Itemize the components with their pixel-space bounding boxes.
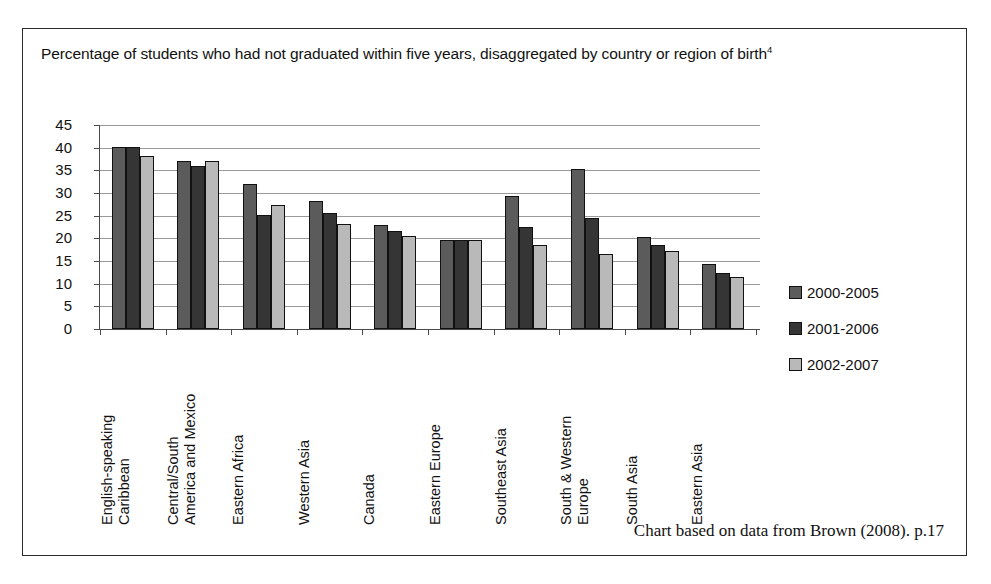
y-tick-label: 30 [32, 187, 72, 199]
bar-group [428, 125, 494, 329]
bar-group [100, 125, 166, 329]
bar[interactable] [112, 147, 126, 329]
bar-group [559, 125, 625, 329]
y-tick-label: 40 [32, 142, 72, 154]
bar[interactable] [665, 251, 679, 329]
bar[interactable] [271, 205, 285, 329]
legend-label: 2002-2007 [807, 356, 879, 373]
y-tick-label: 35 [32, 164, 72, 176]
bar[interactable] [205, 161, 219, 329]
bar[interactable] [388, 231, 402, 329]
bar[interactable] [257, 215, 271, 329]
chart-legend: 2000-20052001-20062002-2007 [789, 284, 879, 392]
legend-swatch-icon [789, 322, 802, 335]
bar[interactable] [599, 254, 613, 329]
bar[interactable] [651, 245, 665, 329]
bar[interactable] [374, 225, 388, 329]
bar-series-container [100, 125, 756, 329]
chart-title-footnote: 4 [767, 44, 772, 55]
x-axis-label: English-speaking Caribbean [99, 335, 165, 525]
y-tick-label: 10 [32, 278, 72, 290]
bar[interactable] [730, 277, 744, 329]
x-tick-mark [756, 329, 757, 335]
x-axis-label: Canada [361, 335, 427, 525]
y-tick-label: 0 [32, 323, 72, 335]
bar[interactable] [571, 169, 585, 329]
bar-group [494, 125, 560, 329]
bar[interactable] [505, 196, 519, 329]
bar[interactable] [702, 264, 716, 329]
legend-item[interactable]: 2000-2005 [789, 284, 879, 301]
y-tick-label: 25 [32, 210, 72, 222]
bar-group [690, 125, 756, 329]
bar[interactable] [585, 218, 599, 329]
bar-group [625, 125, 691, 329]
legend-swatch-icon [789, 358, 802, 371]
bar[interactable] [243, 184, 257, 329]
x-axis-label: Eastern Asia [689, 335, 755, 525]
x-axis-label: South Asia [624, 335, 690, 525]
y-tick-label: 20 [32, 232, 72, 244]
legend-item[interactable]: 2001-2006 [789, 320, 879, 337]
bar[interactable] [440, 240, 454, 329]
bar[interactable] [716, 273, 730, 329]
y-tick-label: 5 [32, 300, 72, 312]
bar[interactable] [309, 201, 323, 329]
bar-group [362, 125, 428, 329]
chart-source-note: Chart based on data from Brown (2008). p… [634, 521, 944, 541]
bar[interactable] [126, 147, 140, 329]
bar-group [166, 125, 232, 329]
chart-title-text: Percentage of students who had not gradu… [41, 45, 767, 62]
bar-group [231, 125, 297, 329]
figure-frame: Percentage of students who had not gradu… [22, 28, 967, 556]
chart-title: Percentage of students who had not gradu… [41, 43, 941, 65]
y-tick-label: 45 [32, 119, 72, 131]
legend-swatch-icon [789, 286, 802, 299]
x-axis-label: South & Western Europe [558, 335, 624, 525]
legend-label: 2000-2005 [807, 284, 879, 301]
bar[interactable] [177, 161, 191, 329]
x-axis-category-labels: English-speaking CaribbeanCentral/South … [99, 335, 755, 531]
x-axis-label: Eastern Africa [230, 335, 296, 525]
bar[interactable] [468, 240, 482, 329]
x-axis-label: Central/South America and Mexico [165, 335, 231, 525]
bar-group [297, 125, 363, 329]
gridline [100, 329, 760, 330]
x-axis-label: Western Asia [296, 335, 362, 525]
bar[interactable] [519, 227, 533, 329]
x-axis-label: Eastern Europe [427, 335, 493, 525]
bar[interactable] [637, 237, 651, 329]
plot-area: 454035302520151050 [99, 125, 756, 330]
bar[interactable] [533, 245, 547, 329]
x-axis-label: Southeast Asia [493, 335, 559, 525]
bar[interactable] [402, 236, 416, 329]
y-tick-label: 15 [32, 255, 72, 267]
bar[interactable] [191, 166, 205, 329]
bar[interactable] [140, 156, 154, 329]
bar[interactable] [337, 224, 351, 329]
legend-item[interactable]: 2002-2007 [789, 356, 879, 373]
bar[interactable] [323, 213, 337, 330]
bar[interactable] [454, 240, 468, 329]
legend-label: 2001-2006 [807, 320, 879, 337]
